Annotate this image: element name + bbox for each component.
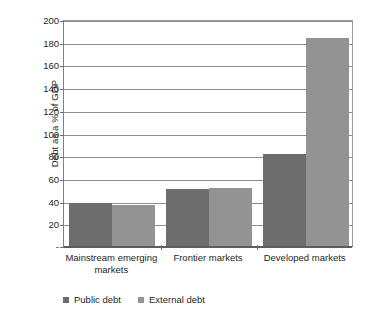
bar-chart-figure: Debt as a % of GDP 200180160140120100806… (0, 0, 371, 318)
gridline (64, 247, 352, 248)
y-tick-label: 180 (43, 39, 59, 49)
legend-swatch-icon (63, 297, 69, 303)
y-tick-label: 60 (48, 175, 59, 185)
y-tick-label: 80 (48, 152, 59, 162)
x-tick-label: Developed markets (256, 252, 353, 264)
bar-external-debt[interactable] (209, 188, 252, 246)
y-tick-label: 120 (43, 107, 59, 117)
legend-swatch-icon (138, 297, 144, 303)
bar-public-debt[interactable] (166, 189, 209, 246)
plot-area: 20018016014012010080604020- (63, 20, 353, 247)
x-axis-labels: Mainstream emerging marketsFrontier mark… (63, 252, 353, 282)
bar-public-debt[interactable] (69, 203, 112, 246)
y-tick-label: 160 (43, 62, 59, 72)
bar-group (64, 21, 161, 246)
x-axis-separator (161, 245, 162, 250)
y-tick-label: 200 (43, 16, 59, 26)
legend-item-public-debt[interactable]: Public debt (63, 294, 121, 305)
legend-item-external-debt[interactable]: External debt (138, 294, 205, 305)
bar-external-debt[interactable] (306, 38, 349, 246)
y-tick-label: 40 (48, 198, 59, 208)
bar-external-debt[interactable] (112, 205, 155, 246)
x-tick-label: Frontier markets (160, 252, 257, 264)
legend-label: Public debt (74, 294, 121, 305)
y-tick-mark (60, 247, 64, 248)
y-tick-label: 140 (43, 84, 59, 94)
bar-group (161, 21, 258, 246)
x-tick-label: Mainstream emerging markets (63, 252, 160, 275)
y-tick-label: 100 (43, 130, 59, 140)
bar-public-debt[interactable] (263, 154, 306, 246)
y-tick-label: 20 (48, 221, 59, 231)
bar-series-container (64, 21, 352, 246)
x-axis-separator (257, 245, 258, 250)
legend-label: External debt (149, 294, 205, 305)
chart-legend: Public debtExternal debt (63, 294, 353, 305)
bar-group (257, 21, 354, 246)
y-axis-title: Debt as a % of GDP (49, 24, 60, 224)
y-tick-label: - (56, 242, 59, 252)
